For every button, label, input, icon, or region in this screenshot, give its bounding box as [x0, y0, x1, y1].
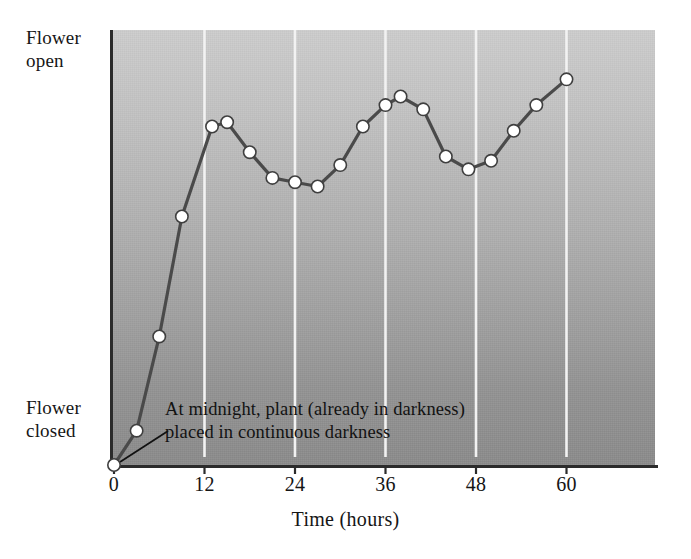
data-point-11 — [357, 120, 369, 132]
data-point-17 — [485, 155, 497, 167]
data-point-15 — [440, 150, 452, 162]
chart-figure: Flower open Flower closed At midnight, p… — [0, 0, 691, 559]
x-tick-label-0: 0 — [109, 472, 119, 496]
data-point-16 — [462, 163, 474, 175]
data-point-20 — [560, 73, 572, 85]
data-point-10 — [334, 159, 346, 171]
chart-svg — [0, 0, 691, 559]
x-tick-label-48: 48 — [466, 472, 487, 496]
data-point-2 — [153, 330, 165, 342]
annotation-label: At midnight, plant (already in darkness)… — [165, 398, 585, 444]
data-point-9 — [311, 180, 323, 192]
x-tick-label-60: 60 — [556, 472, 577, 496]
x-tick-label-36: 36 — [375, 472, 396, 496]
data-point-13 — [394, 90, 406, 102]
data-point-6 — [244, 146, 256, 158]
x-tick-label-12: 12 — [194, 472, 215, 496]
data-point-8 — [289, 176, 301, 188]
data-point-14 — [417, 103, 429, 115]
data-point-0 — [108, 459, 120, 471]
axis-ticks-group — [114, 466, 567, 474]
data-point-3 — [176, 210, 188, 222]
data-point-7 — [266, 172, 278, 184]
data-point-18 — [508, 125, 520, 137]
x-tick-label-24: 24 — [285, 472, 306, 496]
data-point-5 — [221, 116, 233, 128]
gridlines-group — [205, 30, 567, 457]
x-axis-title: Time (hours) — [0, 508, 691, 531]
data-point-12 — [379, 99, 391, 111]
data-point-19 — [530, 99, 542, 111]
data-point-4 — [206, 120, 218, 132]
data-point-1 — [130, 425, 142, 437]
